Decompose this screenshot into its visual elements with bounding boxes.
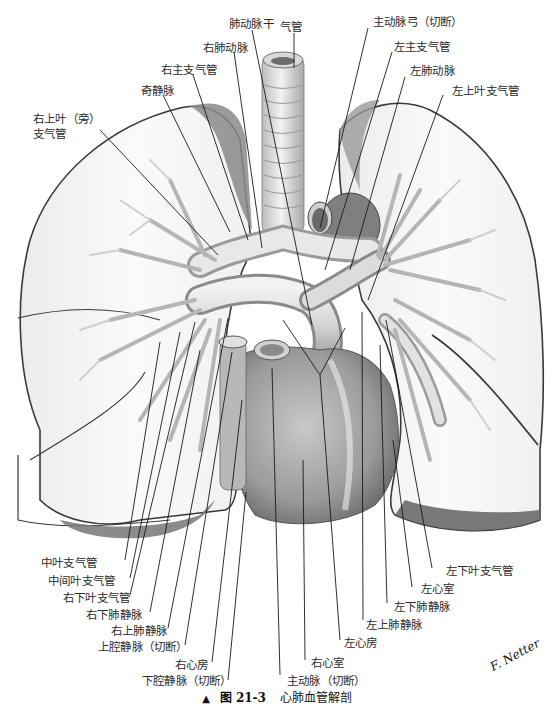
cardiopulmonary-anatomy-figure: 气管 肺动脉干 右肺动脉 右主支气管 奇静脉 右上叶（旁） 支气管 主动脉弓（切… xyxy=(0,0,554,708)
label-left-ventricle: 左心室 xyxy=(421,582,455,596)
label-right-main-bronchus: 右主支气管 xyxy=(161,63,217,77)
label-left-inferior-pulmonary-vein: 左下肺静脉 xyxy=(394,600,450,614)
triangle-marker-icon: ▲ xyxy=(202,693,210,704)
label-left-atrium: 左心房 xyxy=(344,636,378,650)
label-left-superior-pulmonary-vein: 左上肺静脉 xyxy=(366,618,422,632)
label-right-upper-lobe-bronchus: 右上叶（旁） 支气管 xyxy=(33,112,100,142)
label-right-superior-pulmonary-vein: 右上肺静脉 xyxy=(111,624,167,638)
label-superior-vena-cava: 上腔静脉（切断） xyxy=(98,640,188,654)
right-lung xyxy=(18,103,252,538)
label-left-main-bronchus: 左主支气管 xyxy=(394,40,450,54)
figure-number: 图 21-3 xyxy=(220,691,266,705)
label-right-ventricle: 右心室 xyxy=(311,656,345,670)
label-right-lower-lobe-bronchus: 右下叶支气管 xyxy=(63,591,130,605)
label-pulmonary-trunk: 肺动脉干 xyxy=(229,17,274,31)
label-intermediate-bronchus: 中间叶支气管 xyxy=(48,574,115,588)
label-left-pulmonary-artery: 左肺动脉 xyxy=(410,64,455,78)
label-left-lower-lobe-bronchus: 左下叶支气管 xyxy=(446,564,513,578)
label-left-upper-lobe-bronchus: 左上叶支气管 xyxy=(452,84,519,98)
trachea-illustration xyxy=(262,52,304,235)
label-right-pulmonary-artery: 右肺动脉 xyxy=(203,41,248,55)
label-aorta: 主动脉（切断） xyxy=(287,674,365,688)
label-trachea: 气管 xyxy=(280,20,302,34)
label-inferior-vena-cava: 下腔静脉（切断） xyxy=(142,674,232,688)
label-aortic-arch: 主动脉弓（切断） xyxy=(373,15,463,29)
label-azygos-vein: 奇静脉 xyxy=(141,84,175,98)
label-middle-lobe-bronchus: 中叶支气管 xyxy=(41,556,97,570)
figure-caption: ▲ 图 21-3 心肺血管解剖 xyxy=(0,688,554,705)
figure-title: 心肺血管解剖 xyxy=(280,691,352,705)
label-right-inferior-pulmonary-vein: 右下肺静脉 xyxy=(86,608,142,622)
label-right-atrium: 右心房 xyxy=(175,658,209,672)
